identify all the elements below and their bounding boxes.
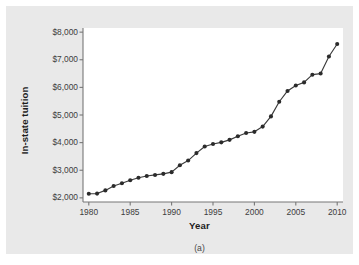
figure-container: $2,000$3,000$4,000$5,000$6,000$7,000$8,0…	[0, 0, 359, 265]
x-axis-tick-label: 1980	[79, 208, 98, 216]
figure-caption-text: (a)	[194, 243, 205, 253]
x-axis-tick-label: 1990	[162, 208, 181, 216]
x-axis-tick-label: 1995	[204, 208, 223, 216]
x-axis-title-text: Year	[189, 220, 210, 231]
x-axis-tick-label: 2010	[328, 208, 347, 216]
x-axis-tick-label: 2005	[286, 208, 305, 216]
y-axis-title: In-state tuition	[19, 56, 30, 186]
figure-panel: $2,000$3,000$4,000$5,000$6,000$7,000$8,0…	[6, 6, 353, 254]
x-axis-tick-label: 2000	[245, 208, 264, 216]
x-axis-tick-label: 1985	[121, 208, 140, 216]
x-axis-title: Year	[6, 220, 359, 231]
figure-caption: (a)	[6, 243, 359, 253]
